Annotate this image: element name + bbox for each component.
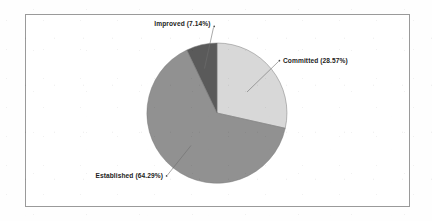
leader-dot-established	[166, 175, 168, 177]
pie-label-committed: Committed (28.57%)	[283, 57, 348, 65]
pie-label-improved: Improved (7.14%)	[154, 20, 210, 28]
leader-dot-committed	[279, 60, 281, 62]
pie-label-established: Established (64.29%)	[95, 172, 163, 180]
pie-slices-group	[147, 43, 287, 183]
pie-chart-figure: Improved (7.14%) Committed (28.57%) Esta…	[0, 0, 432, 221]
pie-chart-canvas: Improved (7.14%) Committed (28.57%) Esta…	[0, 0, 432, 221]
leader-dot-improved	[213, 26, 215, 28]
